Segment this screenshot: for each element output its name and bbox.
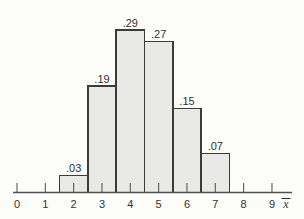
- bar-value-label: .03: [66, 162, 81, 174]
- x-axis-tick-label: 1: [42, 198, 48, 210]
- histogram-bar: [173, 109, 201, 193]
- bar-value-label: .15: [179, 95, 194, 107]
- bar-value-label: .27: [151, 28, 166, 40]
- histogram-figure: .03.19.29.27.15.070123456789x: [0, 0, 304, 219]
- x-axis-tick-label: 6: [184, 198, 190, 210]
- histogram-chart: .03.19.29.27.15.070123456789x: [0, 0, 304, 219]
- x-bar-axis-label: x: [282, 197, 289, 211]
- x-axis-tick-label: 8: [241, 198, 247, 210]
- x-axis-tick-label: 3: [99, 198, 105, 210]
- x-axis-tick-label: 4: [127, 198, 133, 210]
- x-axis-tick-label: 7: [212, 198, 218, 210]
- x-axis-tick-label: 0: [14, 198, 20, 210]
- bar-value-label: .07: [208, 140, 223, 152]
- x-axis-tick-label: 5: [156, 198, 162, 210]
- histogram-bar: [88, 86, 116, 192]
- histogram-bar: [116, 30, 144, 192]
- histogram-bar: [144, 41, 172, 192]
- x-axis-tick-label: 9: [269, 198, 275, 210]
- bar-value-label: .29: [123, 17, 138, 29]
- bar-value-label: .19: [94, 73, 109, 85]
- x-axis-tick-label: 2: [71, 198, 77, 210]
